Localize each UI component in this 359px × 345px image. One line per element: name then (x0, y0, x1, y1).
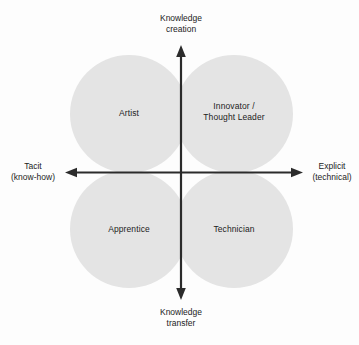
quadrant-label-top-right: Innovator / Thought Leader (184, 101, 284, 123)
axis-label-knowledge-creation: Knowledge creation (131, 13, 231, 35)
axis-label-tacit: Tacit (know-how) (2, 161, 64, 183)
arrowhead-down-icon (176, 288, 186, 300)
quadrant-diagram: Artist Innovator / Thought Leader Appren… (0, 0, 359, 345)
arrowhead-right-icon (291, 168, 303, 178)
quadrant-label-bottom-right: Technician (184, 224, 284, 235)
axis-label-knowledge-transfer: Knowledge transfer (131, 307, 231, 329)
quadrant-label-top-left: Artist (79, 108, 179, 119)
arrowhead-up-icon (176, 45, 186, 57)
quadrant-label-bottom-left: Apprentice (79, 224, 179, 235)
axis-label-explicit: Explicit (technical) (306, 161, 358, 183)
arrowhead-left-icon (65, 168, 77, 178)
